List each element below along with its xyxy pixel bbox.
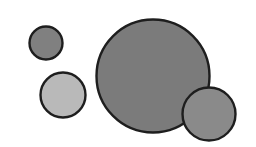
circle-medium-bottom-right: [183, 88, 236, 141]
circle-small-top-left: [30, 27, 63, 60]
circle-light-left: [41, 73, 86, 118]
circles-diagram: [0, 0, 256, 147]
